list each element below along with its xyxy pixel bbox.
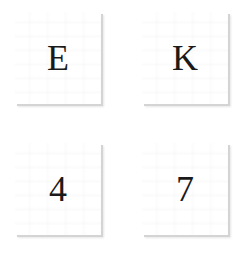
tile-e[interactable]: E <box>15 12 101 104</box>
tile-character: K <box>172 40 198 76</box>
tile-k[interactable]: K <box>142 12 228 104</box>
tile-character: E <box>47 40 69 76</box>
tile-character: 7 <box>176 171 194 207</box>
tile-4[interactable]: 4 <box>15 143 101 235</box>
tile-7[interactable]: 7 <box>142 143 228 235</box>
tile-character: 4 <box>49 171 67 207</box>
